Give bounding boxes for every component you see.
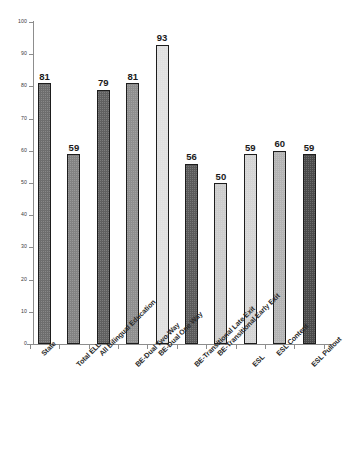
x-axis-tick <box>236 345 237 349</box>
x-axis-tick <box>59 345 60 349</box>
y-axis-tick-label-text: 20 <box>0 277 27 282</box>
y-axis-tick <box>29 22 34 23</box>
bar-chart: 1009080706050403020100 81597981935650596… <box>0 0 345 454</box>
bar: 79 <box>97 90 110 344</box>
y-axis-tick-label: 10 <box>0 309 27 310</box>
y-axis-tick-label-text: 50 <box>0 180 27 185</box>
bar-value-label: 56 <box>186 152 197 162</box>
y-axis-tick-label-text: 80 <box>0 83 27 88</box>
y-axis-tick-label-text: 90 <box>0 51 27 56</box>
y-axis-tick-label: 40 <box>0 212 27 213</box>
bar: 60 <box>273 151 286 344</box>
y-axis-tick-label: 0 <box>0 341 27 342</box>
bar: 59 <box>303 154 316 344</box>
y-axis-tick-label: 20 <box>0 277 27 278</box>
bar: 50 <box>214 183 227 344</box>
x-axis-tick <box>30 345 31 349</box>
bar-value-label: 60 <box>274 139 285 149</box>
bar-value-label: 81 <box>127 72 138 82</box>
y-axis-tick <box>29 183 34 184</box>
bar-value-label: 81 <box>39 72 50 82</box>
y-axis-tick-label-text: 70 <box>0 116 27 121</box>
x-axis-tick <box>294 345 295 349</box>
y-axis-tick-label-text: 0 <box>0 341 27 346</box>
x-axis-tick <box>265 345 266 349</box>
y-axis-tick <box>29 54 34 55</box>
y-axis-tick-label: 50 <box>0 180 27 181</box>
y-axis-tick <box>29 86 34 87</box>
y-axis-tick <box>29 151 34 152</box>
bar-value-label: 59 <box>304 143 315 153</box>
y-axis-tick <box>29 280 34 281</box>
bar-value-label: 79 <box>98 78 109 88</box>
bar-value-label: 93 <box>157 33 168 43</box>
bar: 81 <box>126 83 139 344</box>
bar-value-label: 59 <box>69 143 80 153</box>
y-axis-tick-label-text: 30 <box>0 244 27 249</box>
y-axis-tick-label-text: 40 <box>0 212 27 217</box>
y-axis-tick <box>29 119 34 120</box>
y-axis-tick-label-text: 10 <box>0 309 27 314</box>
bar: 93 <box>156 45 169 344</box>
y-axis-tick <box>29 247 34 248</box>
y-axis-tick-label-text: 60 <box>0 148 27 153</box>
x-axis-category-label: ESL <box>251 353 266 368</box>
y-axis-tick-label: 100 <box>0 19 27 20</box>
y-axis-tick-label: 80 <box>0 83 27 84</box>
y-axis-tick-label: 60 <box>0 148 27 149</box>
bar-value-label: 50 <box>216 172 227 182</box>
x-axis-tick <box>118 345 119 349</box>
y-axis-tick <box>29 312 34 313</box>
y-axis-tick-label: 70 <box>0 116 27 117</box>
y-axis-tick-label: 90 <box>0 51 27 52</box>
y-axis-tick-label: 30 <box>0 244 27 245</box>
y-axis-tick <box>29 215 34 216</box>
bar: 59 <box>67 154 80 344</box>
bar: 81 <box>38 83 51 344</box>
bar-value-label: 59 <box>245 143 256 153</box>
y-axis-tick-label-text: 100 <box>0 19 27 24</box>
x-axis-tick <box>177 345 178 349</box>
